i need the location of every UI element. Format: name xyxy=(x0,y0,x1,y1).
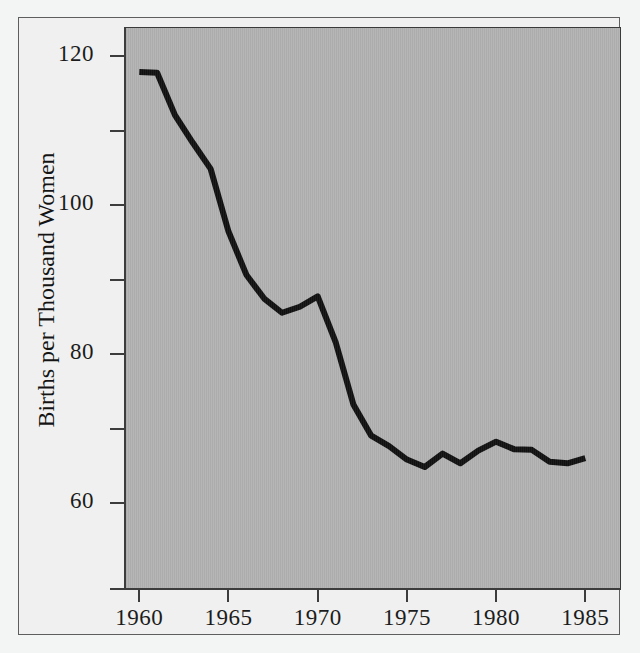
x-tick-label: 1975 xyxy=(383,605,431,631)
chart-figure: Births per Thousand Women 1201008060 196… xyxy=(0,0,640,653)
x-tick-mark xyxy=(317,588,319,602)
y-axis-title: Births per Thousand Women xyxy=(30,10,62,570)
x-tick-label: 1970 xyxy=(294,605,342,631)
y-tick-mark xyxy=(110,204,125,206)
y-tick-mark xyxy=(110,130,125,132)
y-tick-mark xyxy=(110,55,125,57)
x-tick-label: 1980 xyxy=(472,605,520,631)
x-axis-spine xyxy=(110,588,621,590)
x-tick-mark xyxy=(406,588,408,602)
y-tick-mark xyxy=(110,353,125,355)
x-tick-mark xyxy=(495,588,497,602)
x-tick-label: 1960 xyxy=(115,605,163,631)
y-axis-spine xyxy=(124,27,126,590)
y-tick-mark xyxy=(110,279,125,281)
y-tick-label: 80 xyxy=(70,339,94,365)
y-tick-mark xyxy=(110,502,125,504)
x-tick-label: 1965 xyxy=(204,605,252,631)
y-tick-label: 100 xyxy=(58,190,94,216)
y-tick-mark xyxy=(110,428,125,430)
x-tick-mark xyxy=(227,588,229,602)
x-tick-label: 1985 xyxy=(561,605,609,631)
plot-panel xyxy=(125,27,621,589)
data-series-line xyxy=(125,28,621,589)
x-tick-mark xyxy=(584,588,586,602)
y-tick-label: 120 xyxy=(58,41,94,67)
y-tick-label: 60 xyxy=(70,488,94,514)
x-tick-mark xyxy=(138,588,140,602)
